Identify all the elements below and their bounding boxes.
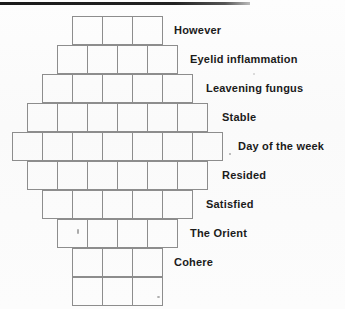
grid-cell[interactable] — [132, 277, 163, 306]
grid-cell[interactable] — [177, 161, 208, 190]
clue-label: Day of the week — [238, 132, 324, 161]
grid-cell[interactable] — [162, 132, 193, 161]
clue-label: Cohere — [174, 248, 213, 277]
grid-cell[interactable] — [147, 45, 178, 74]
grid-row — [57, 45, 178, 74]
clue-label: However — [174, 16, 221, 45]
clue-label: Stable — [222, 103, 256, 132]
grid-cell[interactable] — [177, 103, 208, 132]
grid-cell[interactable] — [117, 103, 148, 132]
grid-cell[interactable] — [132, 16, 163, 45]
grid-cell[interactable] — [132, 74, 163, 103]
grid-row — [42, 74, 193, 103]
grid-cell[interactable] — [12, 132, 43, 161]
grid-cell[interactable] — [42, 190, 73, 219]
grid-cell[interactable] — [72, 16, 103, 45]
grid-row — [57, 219, 178, 248]
grid-cell[interactable] — [162, 74, 193, 103]
grid-cell[interactable] — [72, 277, 103, 306]
grid-cell[interactable] — [27, 161, 58, 190]
diamond-grid-diagram: HoweverEyelid inflammationLeavening fung… — [0, 0, 345, 309]
grid-cell[interactable] — [192, 132, 223, 161]
grid-row — [12, 132, 223, 161]
grid-cell[interactable] — [57, 161, 88, 190]
grid-cell[interactable] — [27, 103, 58, 132]
clue-label: Resided — [222, 161, 266, 190]
grid-cell[interactable] — [42, 74, 73, 103]
grid-cell[interactable] — [72, 190, 103, 219]
grid-cell[interactable] — [102, 16, 133, 45]
clue-label: Eyelid inflammation — [190, 45, 298, 74]
grid-cell[interactable] — [132, 248, 163, 277]
grid-cell[interactable] — [117, 45, 148, 74]
grid-cell[interactable] — [102, 132, 133, 161]
grid-row — [72, 16, 163, 45]
grid-cell[interactable] — [102, 248, 133, 277]
grid-cell[interactable] — [147, 103, 178, 132]
grid-row — [72, 277, 163, 306]
grid-cell[interactable] — [102, 74, 133, 103]
grid-cell[interactable] — [57, 45, 88, 74]
scan-speck — [157, 296, 160, 298]
grid-cell[interactable] — [132, 132, 163, 161]
grid-row — [27, 103, 208, 132]
clue-label: Satisfied — [206, 190, 254, 219]
grid-row — [27, 161, 208, 190]
grid-row — [42, 190, 193, 219]
grid-cell[interactable] — [117, 219, 148, 248]
grid-cell[interactable] — [72, 74, 103, 103]
grid-cell[interactable] — [87, 161, 118, 190]
grid-cell[interactable] — [72, 248, 103, 277]
grid-cell[interactable] — [132, 190, 163, 219]
clue-label: The Orient — [190, 219, 247, 248]
grid-cell[interactable] — [87, 103, 118, 132]
scan-speck — [253, 73, 255, 75]
grid-cell[interactable] — [162, 190, 193, 219]
scan-speck — [229, 153, 231, 155]
grid-cell[interactable] — [42, 132, 73, 161]
grid-row — [72, 248, 163, 277]
grid-cell[interactable] — [102, 277, 133, 306]
grid-cell[interactable] — [117, 161, 148, 190]
clue-label: Leavening fungus — [206, 74, 303, 103]
grid-cell[interactable] — [147, 161, 178, 190]
grid-cell[interactable] — [147, 219, 178, 248]
grid-cell[interactable] — [72, 132, 103, 161]
grid-cell[interactable] — [57, 219, 88, 248]
grid-cell[interactable] — [87, 219, 118, 248]
grid-cell[interactable] — [102, 190, 133, 219]
grid-cell[interactable] — [57, 103, 88, 132]
grid-cell[interactable] — [87, 45, 118, 74]
scan-speck — [77, 229, 79, 234]
